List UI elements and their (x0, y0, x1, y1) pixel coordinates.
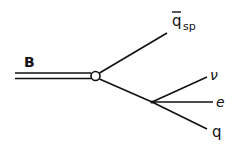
spectator-antiquark-line (100, 33, 168, 73)
label-spectator-sub: sp (183, 20, 196, 33)
quark-line (152, 102, 207, 129)
label-neutrino: ν (210, 67, 218, 83)
decay-vertex-circle (91, 72, 100, 81)
neutrino-line (152, 77, 207, 102)
label-spectator-antiquark: q sp (172, 12, 196, 33)
label-electron: e (216, 94, 225, 110)
label-b-meson: B (24, 54, 35, 70)
weak-propagator-line (100, 79, 153, 102)
feynman-diagram: B q sp ν e q (0, 0, 236, 155)
b-meson-double-line (15, 73, 91, 79)
label-spectator-q: q (172, 12, 182, 30)
label-quark: q (212, 123, 222, 141)
